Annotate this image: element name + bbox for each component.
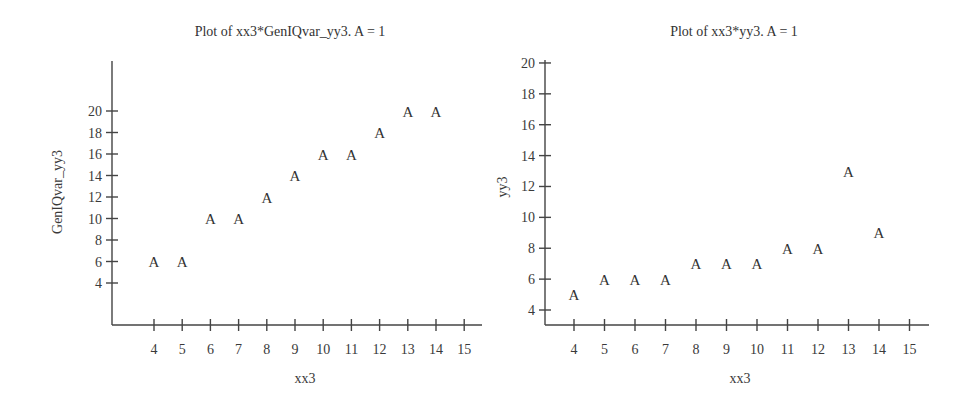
x-tick-label: 6 (207, 342, 214, 357)
data-point-marker: A (205, 211, 216, 227)
data-point-marker: A (346, 147, 357, 163)
x-tick-label: 14 (872, 342, 886, 357)
data-point-marker: A (813, 241, 824, 257)
x-tick-label: 4 (151, 342, 158, 357)
y-tick-label: 10 (88, 212, 102, 227)
data-point-marker: A (177, 254, 188, 270)
x-tick-label: 10 (750, 342, 764, 357)
y-tick-label: 14 (521, 149, 535, 164)
data-point-marker: A (233, 211, 244, 227)
x-tick-label: 12 (373, 342, 387, 357)
x-tick-label: 13 (401, 342, 415, 357)
x-tick-label: 11 (781, 342, 794, 357)
data-point-marker: A (843, 164, 854, 180)
x-tick-label: 10 (316, 342, 330, 357)
chart-title: Plot of xx3*yy3. A = 1 (670, 24, 798, 39)
data-point-marker: A (660, 272, 671, 288)
y-tick-label: 16 (88, 147, 102, 162)
x-tick-label: 9 (292, 342, 299, 357)
x-tick-label: 8 (263, 342, 270, 357)
axes: 468101214161820456789101112131415 (88, 61, 482, 357)
x-tick-label: 5 (601, 342, 608, 357)
x-tick-label: 8 (693, 342, 700, 357)
data-point-marker: A (318, 147, 329, 163)
axes: 468101214161820456789101112131415 (521, 56, 929, 357)
x-tick-label: 11 (345, 342, 358, 357)
x-tick-label: 4 (571, 342, 578, 357)
data-point-marker: A (374, 125, 385, 141)
y-axis-label: yy3 (495, 177, 510, 198)
data-point-marker: A (752, 256, 763, 272)
x-tick-label: 14 (429, 342, 443, 357)
data-point-marker: A (630, 272, 641, 288)
y-tick-label: 20 (521, 56, 535, 71)
y-tick-label: 20 (88, 104, 102, 119)
figure-canvas: Plot of xx3*GenIQvar_yy3. A = 1 xx3 GenI… (0, 0, 964, 400)
x-tick-label: 7 (662, 342, 669, 357)
data-point-marker: A (402, 104, 413, 120)
x-axis-label: xx3 (730, 371, 751, 386)
x-tick-label: 6 (632, 342, 639, 357)
y-tick-label: 18 (88, 126, 102, 141)
x-axis-label: xx3 (295, 371, 316, 386)
data-point-marker: A (782, 241, 793, 257)
x-tick-label: 13 (842, 342, 856, 357)
y-tick-label: 6 (528, 272, 535, 287)
data-point-marker: A (431, 104, 442, 120)
x-tick-label: 12 (811, 342, 825, 357)
x-tick-label: 5 (179, 342, 186, 357)
x-tick-label: 7 (235, 342, 242, 357)
y-tick-label: 4 (528, 303, 535, 318)
chart-genIQvar-vs-xx3: Plot of xx3*GenIQvar_yy3. A = 1 xx3 GenI… (50, 24, 482, 386)
data-point-marker: A (569, 287, 580, 303)
data-point-marker: A (599, 272, 610, 288)
y-tick-label: 12 (88, 190, 102, 205)
data-point-marker: A (290, 168, 301, 184)
data-point-marker: A (874, 225, 885, 241)
data-point-marker: A (691, 256, 702, 272)
y-tick-label: 14 (88, 169, 102, 184)
y-tick-label: 8 (528, 241, 535, 256)
y-tick-label: 8 (95, 233, 102, 248)
y-tick-label: 6 (95, 255, 102, 270)
x-tick-label: 9 (723, 342, 730, 357)
x-tick-label: 15 (457, 342, 471, 357)
data-point-marker: A (721, 256, 732, 272)
y-tick-label: 4 (95, 276, 102, 291)
data-points: AAAAAAAAAAA (149, 104, 442, 271)
y-tick-label: 16 (521, 118, 535, 133)
data-points: AAAAAAAAAAA (569, 164, 885, 304)
chart-title: Plot of xx3*GenIQvar_yy3. A = 1 (195, 24, 386, 39)
chart-yy3-vs-xx3: Plot of xx3*yy3. A = 1 xx3 yy3 468101214… (495, 24, 929, 386)
data-point-marker: A (149, 254, 160, 270)
x-tick-label: 15 (903, 342, 917, 357)
data-point-marker: A (261, 190, 272, 206)
y-tick-label: 18 (521, 87, 535, 102)
y-axis-label: GenIQvar_yy3 (50, 150, 65, 234)
y-tick-label: 12 (521, 179, 535, 194)
y-tick-label: 10 (521, 210, 535, 225)
